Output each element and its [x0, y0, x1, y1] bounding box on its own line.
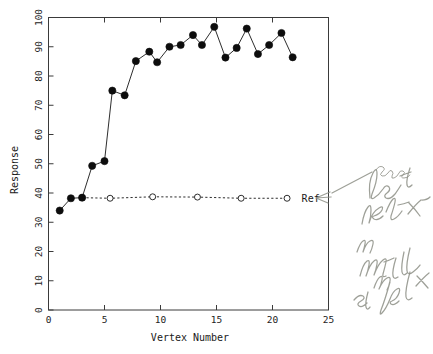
y-tick-label: 80 [33, 70, 44, 82]
x-tick-label: 10 [155, 314, 167, 325]
y-tick-label: 30 [33, 216, 44, 228]
data-point [150, 194, 156, 200]
data-point [177, 41, 184, 48]
data-point [56, 207, 63, 214]
x-axis-title: Vertex Number [151, 332, 229, 343]
ref-series-markers [79, 194, 290, 201]
y-tick-label: 60 [33, 129, 44, 141]
x-tick-label: 5 [102, 314, 108, 325]
x-tick-label: 15 [211, 314, 222, 325]
data-point [166, 43, 173, 50]
data-point [89, 162, 96, 169]
y-tick-label: 50 [33, 158, 44, 170]
y-tick-label: 0 [33, 307, 44, 313]
y-tick-label: 10 [33, 275, 44, 287]
x-tick-label: 0 [46, 314, 52, 325]
data-point [189, 31, 196, 38]
data-point [289, 54, 296, 61]
response-vs-vertex-number-line-chart: 0 10 20 30 40 50 60 70 80 90 100 Respons… [0, 0, 433, 354]
data-point [101, 158, 108, 165]
data-point [198, 41, 205, 48]
data-point [238, 195, 244, 201]
data-point [109, 87, 116, 94]
data-point [266, 41, 273, 48]
y-tick-label: 100 [33, 9, 44, 26]
x-tick-label: 20 [267, 314, 279, 325]
response-series [56, 23, 296, 214]
data-point [79, 194, 86, 201]
data-point [233, 44, 240, 51]
data-point [132, 57, 139, 64]
data-point [67, 195, 74, 202]
data-point [154, 59, 161, 66]
y-axis-ticks [49, 18, 54, 311]
data-point [284, 195, 290, 201]
y-axis-title: Response [9, 146, 20, 194]
data-point [211, 23, 218, 30]
ref-series [79, 194, 290, 201]
data-point [146, 48, 153, 55]
x-axis-tick-labels: 0 5 10 15 20 25 [46, 314, 335, 325]
data-point [222, 54, 229, 61]
data-point [254, 50, 261, 57]
handwritten-annotation [316, 166, 430, 314]
y-axis-tick-labels: 0 10 20 30 40 50 60 70 80 90 100 [33, 9, 44, 313]
y-tick-label: 70 [33, 99, 44, 111]
data-point [121, 92, 128, 99]
response-series-markers [56, 23, 296, 214]
y-tick-label: 20 [33, 246, 44, 258]
chart-figure: 0 10 20 30 40 50 60 70 80 90 100 Respons… [0, 0, 433, 354]
data-point [243, 25, 250, 32]
data-point [278, 29, 285, 36]
data-point [107, 195, 113, 201]
y-tick-label: 40 [33, 187, 44, 199]
x-tick-label: 25 [323, 314, 334, 325]
data-point [194, 194, 200, 200]
y-tick-label: 90 [33, 41, 44, 53]
